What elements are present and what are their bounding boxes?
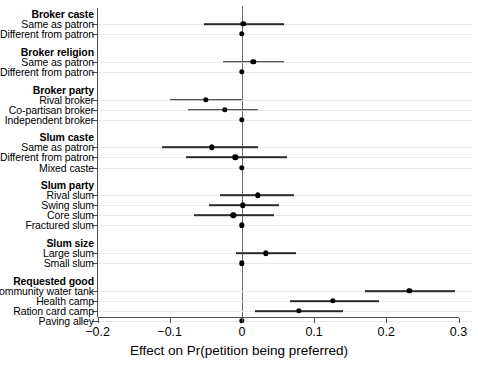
point-estimate-marker	[203, 97, 208, 102]
category-label: Independent broker	[5, 114, 94, 126]
x-axis-tick	[242, 318, 243, 323]
point-estimate-marker	[239, 117, 244, 122]
point-estimate-marker	[255, 193, 260, 198]
category-label: Different from patron	[0, 28, 94, 40]
x-axis-tick	[314, 318, 315, 323]
point-estimate-marker	[231, 213, 236, 218]
x-axis-label: Effect on Pr(petition being preferred)	[0, 343, 478, 358]
y-axis-line	[97, 8, 98, 317]
category-label: Mixed caste	[39, 162, 94, 174]
zero-reference-line	[242, 6, 243, 317]
point-estimate-marker	[296, 308, 301, 313]
coefficient-plot: Broker casteSame as patronDifferent from…	[0, 0, 478, 366]
row-gridline	[98, 100, 472, 101]
row-gridline	[98, 225, 472, 226]
x-axis-tick-label: 0.3	[450, 325, 467, 339]
point-estimate-marker	[239, 223, 244, 228]
point-estimate-marker	[330, 298, 335, 303]
category-label: Different from patron	[0, 66, 94, 78]
x-axis-tick	[386, 318, 387, 323]
category-label: Small slum	[44, 257, 94, 269]
x-axis-tick	[98, 318, 99, 323]
row-gridline	[98, 168, 472, 169]
row-gridline	[98, 147, 472, 148]
x-axis-tick-label: 0.2	[378, 325, 395, 339]
x-axis-tick	[170, 318, 171, 323]
row-gridline	[98, 62, 472, 63]
point-estimate-marker	[239, 165, 244, 170]
point-estimate-marker	[233, 155, 238, 160]
point-estimate-marker	[240, 203, 245, 208]
point-estimate-marker	[239, 69, 244, 74]
row-gridline	[98, 120, 472, 121]
row-gridline	[98, 263, 472, 264]
point-estimate-marker	[251, 59, 256, 64]
point-estimate-marker	[263, 250, 268, 255]
x-axis-tick-label: 0	[238, 325, 245, 339]
x-axis-tick	[459, 318, 460, 323]
row-gridline	[98, 301, 472, 302]
category-label: Fractured slum	[25, 219, 94, 231]
row-gridline	[98, 215, 472, 216]
row-gridline	[98, 72, 472, 73]
point-estimate-marker	[239, 31, 244, 36]
x-axis-tick-label: 0.1	[305, 325, 322, 339]
point-estimate-marker	[407, 288, 412, 293]
row-gridline	[98, 321, 472, 322]
point-estimate-marker	[239, 260, 244, 265]
x-axis-tick-label: −0.2	[85, 325, 110, 339]
point-estimate-marker	[241, 21, 246, 26]
x-axis-tick-label: −0.1	[157, 325, 182, 339]
point-estimate-marker	[222, 107, 227, 112]
row-gridline	[98, 205, 472, 206]
row-gridline	[98, 34, 472, 35]
row-gridline	[98, 110, 472, 111]
row-gridline	[98, 24, 472, 25]
point-estimate-marker	[209, 145, 214, 150]
x-axis-line	[98, 317, 459, 318]
